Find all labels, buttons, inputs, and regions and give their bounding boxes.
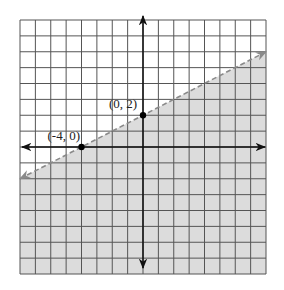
point-marker [140,112,146,118]
point-label: (0, 2) [109,96,137,111]
point-label: (-4, 0) [48,128,81,143]
point-marker [78,144,84,150]
inequality-graph: (-4, 0)(0, 2) [0,0,284,290]
